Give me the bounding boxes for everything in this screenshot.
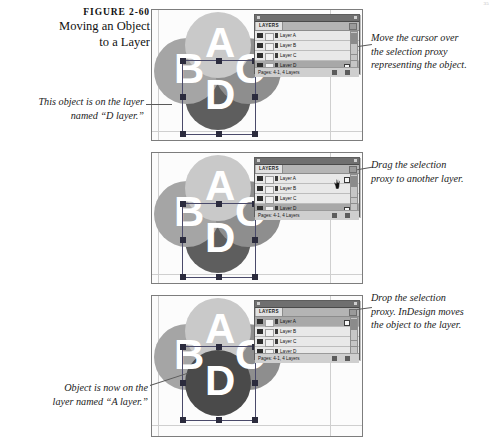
palette-title-bar[interactable] — [255, 15, 359, 22]
selection-handle-tm[interactable] — [216, 344, 222, 350]
layer-name-b[interactable]: Layer B — [280, 328, 296, 335]
scrollbar-thumb[interactable] — [351, 33, 357, 44]
layers-list[interactable]: Layer A Layer B Layer C — [255, 31, 359, 67]
selection-handle-bm[interactable] — [216, 417, 222, 423]
selection-handle-bm[interactable] — [216, 274, 222, 280]
eye-visibility-icon[interactable] — [257, 319, 263, 324]
selection-handle-mr[interactable] — [252, 237, 258, 243]
layer-row-b[interactable]: Layer B — [255, 41, 359, 51]
selection-handle-tl[interactable] — [180, 344, 186, 350]
palette-tab-row[interactable]: LAYERS — [255, 165, 359, 174]
eye-visibility-icon[interactable] — [257, 53, 263, 58]
eye-visibility-icon[interactable] — [257, 33, 263, 38]
layers-scrollbar[interactable] — [350, 317, 358, 341]
lock-toggle-icon[interactable] — [265, 319, 274, 327]
layer-name-c[interactable]: Layer C — [280, 52, 296, 59]
new-layer-icon[interactable] — [332, 213, 337, 218]
layer-name-c[interactable]: Layer C — [280, 338, 296, 345]
layer-name-b[interactable]: Layer B — [280, 185, 296, 192]
layers-scrollbar[interactable] — [350, 174, 358, 198]
selection-handle-tm[interactable] — [216, 201, 222, 207]
layer-row-b[interactable]: Layer B — [255, 184, 359, 194]
eye-visibility-icon[interactable] — [257, 43, 263, 48]
layer-name-c[interactable]: Layer C — [280, 195, 296, 202]
selection-handle-mr[interactable] — [252, 380, 258, 386]
lock-toggle-icon[interactable] — [265, 329, 274, 337]
layer-row-a[interactable]: Layer A — [255, 174, 359, 184]
selection-handle-bm[interactable] — [216, 131, 222, 137]
layer-row-a[interactable]: Layer A — [255, 317, 359, 327]
new-layer-icon[interactable] — [332, 70, 337, 75]
selection-handle-br[interactable] — [252, 417, 258, 423]
layers-list[interactable]: Layer A Layer B Layer C — [255, 317, 359, 353]
lock-toggle-icon[interactable] — [265, 339, 274, 347]
palette-close-icon[interactable] — [257, 159, 260, 162]
selection-bounding-box[interactable] — [182, 60, 256, 135]
layer-name-a[interactable]: Layer A — [280, 318, 296, 325]
layer-name-a[interactable]: Layer A — [280, 175, 296, 182]
selection-handle-tl[interactable] — [180, 201, 186, 207]
layer-row-c[interactable]: Layer C — [255, 51, 359, 61]
eye-visibility-icon[interactable] — [257, 196, 263, 201]
layers-palette[interactable]: LAYERS Layer A Layer B — [254, 157, 360, 217]
selection-handle-mr[interactable] — [252, 94, 258, 100]
selection-handle-tm[interactable] — [216, 58, 222, 64]
trash-icon[interactable] — [345, 70, 350, 75]
lock-toggle-icon[interactable] — [265, 33, 274, 41]
selection-handle-tl[interactable] — [180, 58, 186, 64]
layers-scrollbar[interactable] — [350, 31, 358, 55]
callout-line-1: Object is now on the — [10, 381, 148, 395]
tab-layers[interactable]: LAYERS — [256, 165, 283, 173]
layer-name-b[interactable]: Layer B — [280, 42, 296, 49]
selection-bounding-box[interactable] — [182, 203, 256, 278]
lock-toggle-icon[interactable] — [265, 186, 274, 194]
trash-icon[interactable] — [345, 356, 350, 361]
panel-menu-icon[interactable] — [349, 166, 357, 173]
selection-handle-bl[interactable] — [180, 417, 186, 423]
trash-icon[interactable] — [345, 213, 350, 218]
palette-close-icon[interactable] — [257, 16, 260, 19]
eye-visibility-icon[interactable] — [257, 186, 263, 191]
lock-toggle-icon[interactable] — [265, 176, 274, 184]
layer-row-c[interactable]: Layer C — [255, 194, 359, 204]
eye-visibility-icon[interactable] — [257, 329, 263, 334]
lock-toggle-icon[interactable] — [265, 53, 274, 61]
scrollbar-thumb[interactable] — [351, 176, 357, 187]
layer-color-swatch — [275, 196, 278, 201]
layer-color-swatch — [275, 33, 278, 38]
layer-row-b[interactable]: Layer B — [255, 327, 359, 337]
layers-list[interactable]: Layer A Layer B Layer C — [255, 174, 359, 210]
lock-toggle-icon[interactable] — [265, 43, 274, 51]
selection-handle-ml[interactable] — [180, 94, 186, 100]
layers-palette[interactable]: LAYERS Layer A Layer B — [254, 14, 360, 74]
palette-collapse-icon[interactable] — [354, 302, 357, 305]
tab-layers[interactable]: LAYERS — [256, 308, 283, 316]
scrollbar-thumb[interactable] — [351, 319, 357, 330]
new-layer-icon[interactable] — [332, 356, 337, 361]
selection-handle-bl[interactable] — [180, 274, 186, 280]
selection-handle-bl[interactable] — [180, 131, 186, 137]
palette-tab-row[interactable]: LAYERS — [255, 308, 359, 317]
layer-name-a[interactable]: Layer A — [280, 32, 296, 39]
figure-panel-step-1: A B C D LAYERS — [151, 9, 363, 141]
selection-bounding-box[interactable] — [182, 346, 256, 421]
palette-collapse-icon[interactable] — [354, 159, 357, 162]
layers-palette[interactable]: LAYERS Layer A Layer B — [254, 300, 360, 360]
eye-visibility-icon[interactable] — [257, 339, 263, 344]
palette-title-bar[interactable] — [255, 158, 359, 165]
selection-handle-br[interactable] — [252, 274, 258, 280]
palette-collapse-icon[interactable] — [354, 16, 357, 19]
selection-handle-ml[interactable] — [180, 237, 186, 243]
palette-tab-row[interactable]: LAYERS — [255, 22, 359, 31]
palette-close-icon[interactable] — [257, 302, 260, 305]
palette-title-bar[interactable] — [255, 301, 359, 308]
panel-menu-icon[interactable] — [349, 309, 357, 316]
panel-menu-icon[interactable] — [349, 23, 357, 30]
tab-layers[interactable]: LAYERS — [256, 22, 283, 30]
layer-row-a[interactable]: Layer A — [255, 31, 359, 41]
selection-handle-br[interactable] — [252, 131, 258, 137]
layer-row-c[interactable]: Layer C — [255, 337, 359, 347]
selection-handle-ml[interactable] — [180, 380, 186, 386]
eye-visibility-icon[interactable] — [257, 176, 263, 181]
lock-toggle-icon[interactable] — [265, 196, 274, 204]
